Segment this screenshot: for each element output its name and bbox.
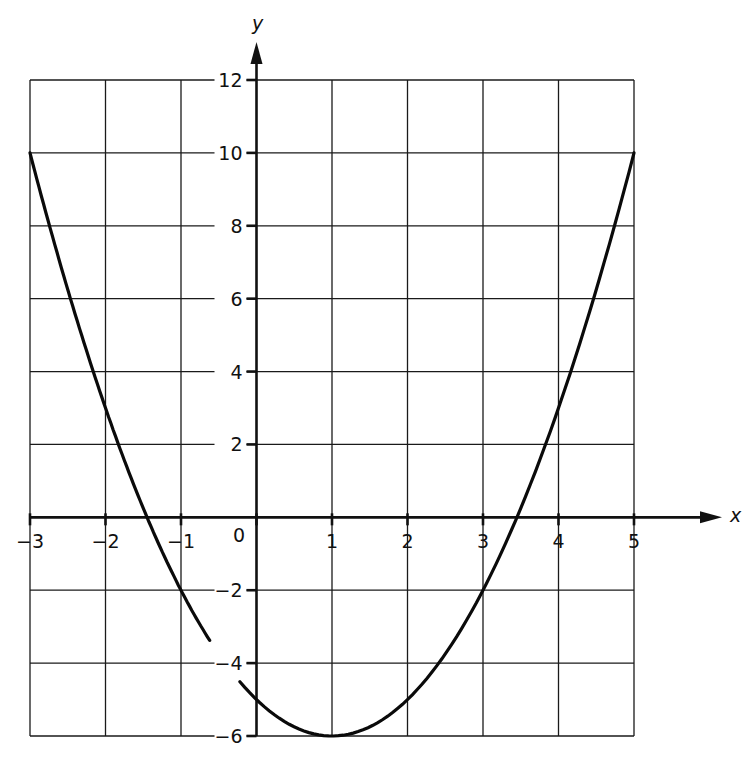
y-tick-label: −6 <box>214 725 242 747</box>
grid-lines <box>30 80 634 736</box>
x-tick-label: 3 <box>477 530 489 552</box>
x-tick-label: −3 <box>16 530 44 552</box>
parabola-chart: −3−2−11234512108642−2−4−6 y x 0 <box>0 0 752 761</box>
y-axis-label: y <box>251 12 264 34</box>
y-tick-label: 6 <box>230 288 242 310</box>
y-tick-label: 2 <box>230 433 242 455</box>
y-tick-label: 8 <box>230 215 242 237</box>
x-tick-label: −1 <box>167 530 195 552</box>
y-tick-label: −2 <box>214 579 242 601</box>
x-tick-label: 1 <box>326 530 338 552</box>
y-tick-label: 4 <box>230 361 242 383</box>
axes <box>30 42 722 736</box>
y-axis-arrow-icon <box>251 42 263 64</box>
x-axis-label: x <box>729 504 742 526</box>
x-tick-label: 5 <box>628 530 640 552</box>
x-tick-label: 4 <box>552 530 564 552</box>
origin-label: 0 <box>233 524 245 546</box>
x-tick-label: 2 <box>401 530 413 552</box>
y-tick-label: 12 <box>218 69 242 91</box>
y-tick-label: −4 <box>214 652 242 674</box>
tick-labels: −3−2−11234512108642−2−4−6 <box>16 69 640 747</box>
x-tick-label: −2 <box>91 530 119 552</box>
x-axis-arrow-icon <box>700 511 722 523</box>
y-tick-label: 10 <box>218 142 242 164</box>
